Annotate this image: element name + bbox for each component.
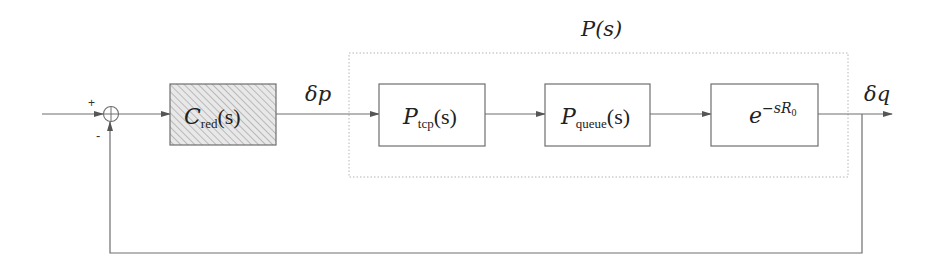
p-tcp-arg: (s) (434, 104, 457, 129)
plus-sign: + (88, 96, 95, 110)
plant-group-label: P(s) (580, 17, 622, 41)
p-queue-subscript: queue (576, 116, 607, 131)
block-diagram: P(s) + - Cred(s) δp Ptcp(s) Pqueue(s) (0, 0, 929, 271)
p-tcp-symbol: P (402, 104, 419, 129)
minus-sign: - (96, 128, 100, 143)
delta-p-label: δp (305, 82, 331, 106)
delay-exponent: −sR (762, 100, 792, 116)
c-red-block: Cred(s) (170, 84, 276, 145)
c-red-subscript: red (201, 116, 218, 131)
p-tcp-subscript: tcp (418, 116, 434, 131)
p-queue-arg: (s) (607, 104, 630, 129)
delay-base: e (749, 103, 762, 128)
p-queue-symbol: P (560, 104, 577, 129)
delay-block: e−sR0 (711, 84, 818, 146)
delay-exponent-subscript: 0 (792, 107, 797, 118)
delta-q-label: δq (864, 82, 890, 106)
p-tcp-block: Ptcp(s) (379, 84, 485, 146)
summing-junction (104, 107, 119, 122)
c-red-symbol: C (184, 104, 201, 129)
plant-group-label-text: P(s) (580, 17, 622, 41)
c-red-arg: (s) (217, 104, 240, 129)
p-queue-block: Pqueue(s) (545, 84, 650, 146)
